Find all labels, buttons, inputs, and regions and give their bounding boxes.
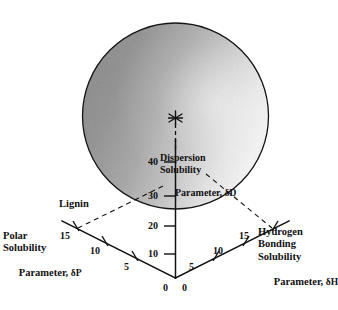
tick-label-dD-0: 0 [163,282,168,294]
hydrogen-title-line4-text: Parameter, [274,276,323,287]
hydrogen-symbol: δH [326,277,338,287]
dispersion-title-line3-text: Parameter, [175,187,222,198]
dispersion-title-line3: Parameter, δD [160,176,236,212]
tick-label-dH-10: 10 [213,245,223,257]
tick-label-dH-15: 15 [239,230,249,242]
tick-label-dD-30: 30 [148,190,158,202]
chart-figure: 40 30 20 10 0 15 10 5 0 15 10 5 Lignin D… [0,0,338,310]
tick-label-dP-0: 0 [182,282,187,294]
dispersion-axis-title: Dispersion Solubility Parameter, δD [160,152,236,211]
dispersion-title-line2: Solubility [160,164,236,176]
hydrogen-title-line3: Solubility [258,251,338,263]
polar-title-line1: Polar [3,230,82,242]
tick-label-dD-20: 20 [148,220,158,232]
tick-label-dP-10: 10 [90,245,100,257]
polar-title-line2: Solubility [3,242,82,254]
hydrogen-title-line4: Parameter, δH [258,263,338,300]
hydrogen-axis-title: Hydrogen Bonding Solubility Parameter, δ… [258,226,338,300]
tick-label-dH-5: 5 [189,261,194,273]
polar-axis-title: Polar Solubility Parameter, δP [3,230,82,292]
dispersion-symbol: δD [225,188,237,198]
polar-symbol: δP [71,268,82,278]
dispersion-title-line1: Dispersion [160,152,236,164]
hydrogen-title-line2: Bonding [258,238,338,250]
lignin-label: Lignin [59,198,89,210]
tick-label-dD-40: 40 [148,156,158,168]
tick-label-dD-10: 10 [148,248,158,260]
polar-title-line3: Parameter, δP [3,255,82,292]
hydrogen-title-line1: Hydrogen [258,226,338,238]
tick-label-dP-5: 5 [124,261,129,273]
polar-title-line3-text: Parameter, [19,267,68,278]
